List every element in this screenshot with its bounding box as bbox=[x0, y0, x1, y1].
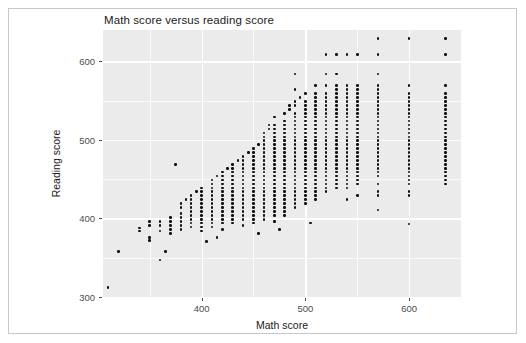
scatter-point bbox=[377, 96, 380, 99]
scatter-point bbox=[231, 202, 234, 205]
scatter-point bbox=[294, 120, 297, 123]
scatter-point bbox=[408, 112, 411, 115]
scatter-point bbox=[444, 120, 447, 123]
scatter-point bbox=[294, 88, 297, 91]
scatter-point bbox=[283, 202, 286, 205]
scatter-point bbox=[346, 104, 349, 107]
scatter-point bbox=[304, 128, 307, 131]
scatter-point bbox=[444, 179, 447, 182]
scatter-point bbox=[252, 198, 255, 201]
scatter-point bbox=[335, 53, 338, 56]
scatter-point bbox=[247, 151, 250, 154]
scatter-point bbox=[294, 116, 297, 119]
scatter-point bbox=[304, 116, 307, 119]
scatter-point bbox=[283, 214, 286, 217]
scatter-point bbox=[335, 128, 338, 131]
scatter-point bbox=[444, 124, 447, 127]
scatter-point bbox=[283, 206, 286, 209]
scatter-point bbox=[180, 216, 183, 219]
scatter-point bbox=[200, 230, 203, 233]
scatter-point bbox=[346, 124, 349, 127]
scatter-point bbox=[231, 222, 234, 225]
scatter-point bbox=[408, 104, 411, 107]
scatter-point bbox=[304, 143, 307, 146]
scatter-point bbox=[242, 167, 245, 170]
scatter-point bbox=[346, 120, 349, 123]
scatter-point bbox=[138, 230, 141, 233]
scatter-point bbox=[314, 190, 317, 193]
figure-root: Math score versus reading score 40050060… bbox=[0, 0, 526, 343]
scatter-point bbox=[346, 96, 349, 99]
scatter-point bbox=[356, 112, 359, 115]
scatter-point bbox=[200, 190, 203, 193]
scatter-point bbox=[346, 88, 349, 91]
scatter-point bbox=[231, 183, 234, 186]
scatter-points bbox=[103, 30, 461, 297]
scatter-point bbox=[314, 171, 317, 174]
scatter-point bbox=[221, 210, 224, 213]
scatter-point bbox=[242, 179, 245, 182]
scatter-point bbox=[377, 209, 380, 212]
scatter-point bbox=[273, 167, 276, 170]
scatter-point bbox=[200, 194, 203, 197]
scatter-point bbox=[221, 194, 224, 197]
scatter-point bbox=[314, 183, 317, 186]
scatter-point bbox=[325, 159, 328, 162]
scatter-point bbox=[263, 132, 266, 135]
scatter-point bbox=[221, 202, 224, 205]
scatter-point bbox=[314, 124, 317, 127]
scatter-point bbox=[304, 136, 307, 139]
x-tick-label: 600 bbox=[401, 303, 417, 314]
scatter-point bbox=[408, 179, 411, 182]
scatter-point bbox=[211, 194, 214, 197]
scatter-point bbox=[283, 120, 286, 123]
scatter-point bbox=[294, 171, 297, 174]
scatter-point bbox=[335, 112, 338, 115]
scatter-point bbox=[346, 167, 349, 170]
scatter-point bbox=[335, 100, 338, 103]
scatter-point bbox=[221, 214, 224, 217]
scatter-point bbox=[304, 179, 307, 182]
scatter-point bbox=[252, 175, 255, 178]
scatter-point bbox=[325, 183, 328, 186]
scatter-point bbox=[314, 104, 317, 107]
scatter-point bbox=[190, 206, 193, 209]
scatter-point bbox=[335, 139, 338, 142]
scatter-point bbox=[346, 163, 349, 166]
scatter-point bbox=[242, 218, 245, 221]
scatter-point bbox=[200, 222, 203, 225]
scatter-point bbox=[294, 167, 297, 170]
scatter-point bbox=[304, 167, 307, 170]
scatter-point bbox=[444, 108, 447, 111]
scatter-point bbox=[211, 187, 214, 190]
scatter-point bbox=[190, 222, 193, 225]
scatter-point bbox=[211, 198, 214, 201]
scatter-point bbox=[377, 163, 380, 166]
scatter-point bbox=[200, 226, 203, 229]
scatter-point bbox=[335, 171, 338, 174]
scatter-point bbox=[283, 175, 286, 178]
scatter-point bbox=[346, 183, 349, 186]
scatter-point bbox=[169, 232, 172, 235]
scatter-point bbox=[335, 73, 338, 76]
scatter-point bbox=[325, 84, 328, 87]
scatter-point bbox=[237, 159, 240, 162]
scatter-point bbox=[169, 228, 172, 231]
scatter-point bbox=[314, 116, 317, 119]
scatter-point bbox=[346, 132, 349, 135]
scatter-point bbox=[325, 124, 328, 127]
scatter-point bbox=[242, 214, 245, 217]
scatter-point bbox=[356, 132, 359, 135]
scatter-point bbox=[325, 171, 328, 174]
scatter-point bbox=[216, 175, 219, 178]
scatter-point bbox=[263, 187, 266, 190]
scatter-point bbox=[346, 179, 349, 182]
scatter-point bbox=[294, 132, 297, 135]
scatter-point bbox=[268, 128, 271, 131]
scatter-point bbox=[325, 163, 328, 166]
scatter-point bbox=[231, 179, 234, 182]
scatter-point bbox=[263, 179, 266, 182]
scatter-point bbox=[304, 198, 307, 201]
scatter-point bbox=[314, 155, 317, 158]
scatter-point bbox=[205, 240, 208, 243]
